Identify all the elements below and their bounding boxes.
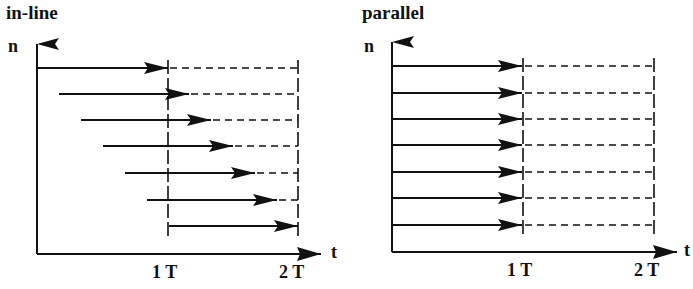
parallel-diagram (392, 42, 677, 252)
inline-diagram (37, 44, 321, 254)
timing-diagrams (0, 0, 693, 289)
